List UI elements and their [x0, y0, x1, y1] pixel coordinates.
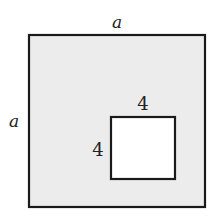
outer-left-label: a	[9, 111, 19, 131]
inner-left-label: 4	[92, 139, 103, 160]
outer-top-label: a	[112, 12, 122, 32]
shaded-square-diagram: a a 4 4	[0, 0, 216, 216]
inner-square	[111, 117, 175, 179]
inner-top-label: 4	[137, 93, 148, 114]
